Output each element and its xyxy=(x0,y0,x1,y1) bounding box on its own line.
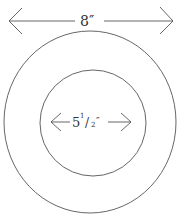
svg-text:/: / xyxy=(85,116,90,130)
svg-text:2: 2 xyxy=(91,121,95,129)
svg-text:″: ″ xyxy=(96,115,100,126)
svg-text:1: 1 xyxy=(80,112,84,120)
outer-diameter-label: 8″ xyxy=(80,13,94,29)
outer-circle xyxy=(4,31,176,213)
inner-diameter-label: 5 1 / 2 ″ xyxy=(72,112,100,130)
concentric-circles-diagram: 8″ 5 1 / 2 ″ xyxy=(0,0,177,220)
